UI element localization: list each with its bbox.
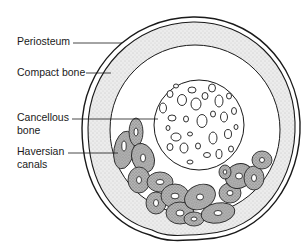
label-cancellous-line2: bone [17, 124, 69, 137]
cancellous-bone [154, 80, 244, 170]
label-haversian-line1: Haversian [17, 145, 64, 158]
label-compact-bone-text: Compact bone [17, 66, 85, 78]
label-haversian-line2: canals [17, 158, 64, 171]
label-cancellous-bone: Cancellous bone [17, 111, 69, 137]
label-haversian-canals: Haversian canals [17, 145, 64, 171]
label-compact-bone: Compact bone [17, 66, 85, 79]
label-cancellous-line1: Cancellous [17, 111, 69, 124]
label-periosteum-text: Periosteum [17, 35, 70, 47]
label-periosteum: Periosteum [17, 35, 70, 48]
